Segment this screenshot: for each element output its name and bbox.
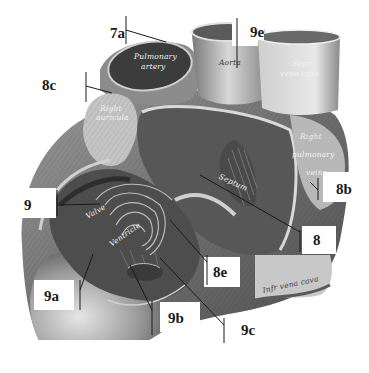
callout-9e: 9e: [250, 25, 264, 40]
engraved-label-right-pulm-3: veins: [306, 168, 327, 177]
engraved-label-artery: artery: [141, 62, 166, 71]
callout-8b: 8b: [336, 182, 352, 197]
engraved-label-right-auricula-2: auricula: [96, 113, 129, 122]
engraved-label-pulmonary: Pulmonary: [134, 52, 177, 61]
callout-8: 8: [313, 233, 321, 248]
heart-anatomy-figure: Pulmonary artery Aorta Supr vena cava Ri…: [0, 0, 369, 373]
callout-9: 9: [24, 198, 32, 213]
callout-9a: 9a: [44, 289, 59, 304]
engraved-label-right-pulm-1: Right: [300, 132, 322, 141]
engraved-label-right-auricula-1: Right: [100, 104, 122, 113]
callout-8e: 8e: [213, 265, 227, 280]
heart-illustration: [0, 0, 369, 373]
callout-7a: 7a: [110, 26, 125, 41]
engraved-label-right-pulm-2: pulmonary: [292, 150, 335, 159]
callout-9b: 9b: [168, 311, 184, 326]
callout-8c: 8c: [42, 78, 56, 93]
engraved-label-supr: Supr: [292, 59, 311, 68]
engraved-label-vena-cava: vena cava: [280, 69, 320, 78]
callout-9c: 9c: [241, 323, 255, 338]
engraved-label-aorta: Aorta: [219, 58, 241, 67]
